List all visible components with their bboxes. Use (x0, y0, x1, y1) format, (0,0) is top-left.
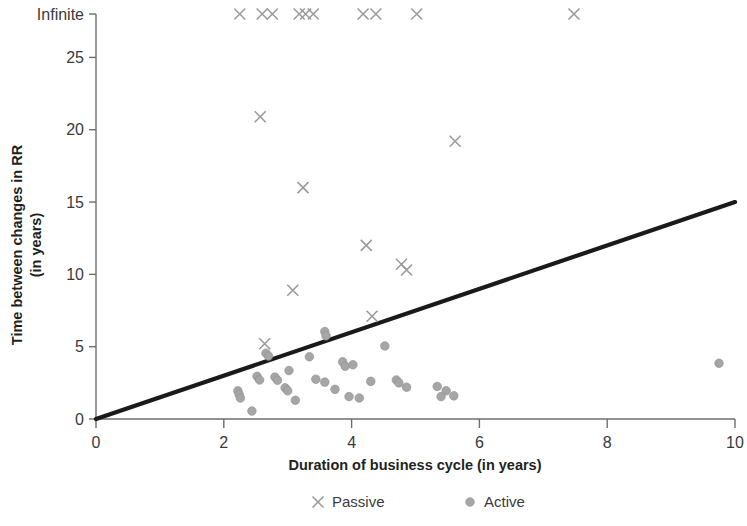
passive-marker (313, 497, 324, 508)
active-marker (433, 382, 442, 391)
active-marker (291, 396, 300, 405)
passive-marker (298, 182, 309, 193)
active-marker (366, 377, 375, 386)
y-tick-label: 5 (75, 338, 84, 355)
series-active-markers (234, 327, 724, 415)
y-tick-label: Infinite (37, 6, 84, 23)
active-marker (402, 383, 411, 392)
x-tick-label: 10 (726, 434, 744, 451)
y-axis-title: Time between changes in RR (in years) (9, 144, 44, 345)
active-marker (349, 360, 358, 369)
y-tick-label: 15 (66, 194, 84, 211)
passive-marker (358, 9, 369, 20)
legend-label-active: Active (484, 493, 525, 510)
active-marker (312, 375, 321, 384)
active-marker (305, 353, 314, 362)
active-marker (345, 392, 354, 401)
active-marker (283, 386, 292, 395)
chart-legend: PassiveActive (313, 493, 525, 510)
passive-marker (267, 9, 278, 20)
y-tick-label: 10 (66, 266, 84, 283)
passive-marker (287, 285, 298, 296)
active-marker (395, 379, 404, 388)
passive-marker (308, 9, 319, 20)
passive-marker (259, 338, 270, 349)
passive-marker (568, 9, 579, 20)
active-marker (715, 359, 724, 368)
passive-marker (361, 240, 372, 251)
x-axis-ticks: 0246810 (92, 419, 744, 451)
active-marker (320, 378, 329, 387)
x-tick-label: 2 (219, 434, 228, 451)
passive-marker (370, 9, 381, 20)
active-marker (466, 498, 475, 507)
active-marker (355, 394, 364, 403)
active-marker (341, 362, 350, 371)
x-tick-label: 0 (92, 434, 101, 451)
y-axis-title-line2: (in years) (28, 213, 44, 278)
trendline (96, 202, 735, 419)
scatter-chart-figure: Time between changes in RR (in years) 05… (0, 0, 747, 526)
active-marker (381, 342, 390, 351)
active-marker (285, 366, 294, 375)
y-axis-title-line1: Time between changes in RR (9, 144, 25, 345)
chart-canvas: Time between changes in RR (in years) 05… (0, 0, 747, 526)
x-axis-title: Duration of business cycle (in years) (288, 457, 541, 473)
active-marker (450, 392, 459, 401)
passive-marker (450, 136, 461, 147)
active-marker (264, 352, 273, 361)
x-tick-label: 6 (475, 434, 484, 451)
trendline-segment (96, 202, 735, 419)
passive-marker (411, 9, 422, 20)
active-marker (255, 376, 264, 385)
y-tick-label: 25 (66, 49, 84, 66)
series-passive-markers (234, 9, 579, 350)
active-marker (331, 385, 340, 394)
passive-marker (367, 311, 378, 322)
passive-marker (294, 9, 305, 20)
passive-marker (401, 265, 412, 276)
active-marker (273, 376, 282, 385)
passive-marker (257, 9, 268, 20)
active-marker (322, 332, 331, 341)
passive-marker (255, 111, 266, 122)
legend-label-passive: Passive (332, 493, 385, 510)
x-tick-label: 8 (603, 434, 612, 451)
y-axis-ticks: 0510152025Infinite (37, 6, 96, 428)
y-tick-label: 0 (75, 411, 84, 428)
x-tick-label: 4 (347, 434, 356, 451)
active-marker (437, 392, 446, 401)
active-marker (248, 407, 257, 416)
active-marker (236, 394, 245, 403)
passive-marker (234, 9, 245, 20)
y-tick-label: 20 (66, 121, 84, 138)
